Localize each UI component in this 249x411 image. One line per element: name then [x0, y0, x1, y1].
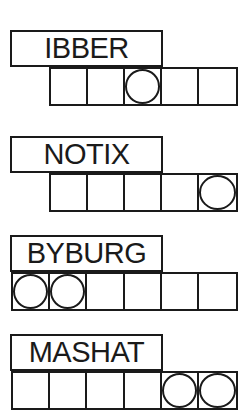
letter-cell[interactable] — [125, 373, 162, 408]
scrambled-word: NOTIX — [10, 136, 163, 173]
answer-cells — [49, 67, 238, 106]
answer-cells — [11, 371, 238, 410]
letter-cell[interactable] — [50, 373, 87, 408]
circle-marker-icon — [125, 69, 160, 104]
letter-cell[interactable] — [87, 373, 124, 408]
circled-letter-cell[interactable] — [199, 373, 236, 408]
circled-letter-cell[interactable] — [199, 175, 236, 210]
circled-letter-cell[interactable] — [125, 69, 162, 104]
letter-cell[interactable] — [51, 175, 88, 210]
letter-cell[interactable] — [162, 175, 199, 210]
circle-marker-icon — [162, 373, 197, 408]
letter-cell[interactable] — [125, 274, 162, 309]
circled-letter-cell[interactable] — [50, 274, 87, 309]
scrambled-word: MASHAT — [10, 334, 163, 371]
letter-cell[interactable] — [162, 69, 199, 104]
letter-cell[interactable] — [199, 69, 236, 104]
circle-marker-icon — [199, 175, 236, 210]
answer-cells — [49, 173, 238, 212]
scrambled-word: BYBURG — [10, 235, 163, 272]
letter-cell[interactable] — [13, 373, 50, 408]
letter-cell[interactable] — [88, 175, 125, 210]
circle-marker-icon — [50, 274, 85, 309]
circle-marker-icon — [199, 373, 236, 408]
answer-cells — [11, 272, 238, 311]
letter-cell[interactable] — [199, 274, 236, 309]
letter-cell[interactable] — [162, 274, 199, 309]
circle-marker-icon — [13, 274, 48, 309]
letter-cell[interactable] — [51, 69, 88, 104]
circled-letter-cell[interactable] — [13, 274, 50, 309]
letter-cell[interactable] — [88, 69, 125, 104]
scrambled-word: IBBER — [10, 30, 163, 67]
circled-letter-cell[interactable] — [162, 373, 199, 408]
letter-cell[interactable] — [87, 274, 124, 309]
letter-cell[interactable] — [125, 175, 162, 210]
